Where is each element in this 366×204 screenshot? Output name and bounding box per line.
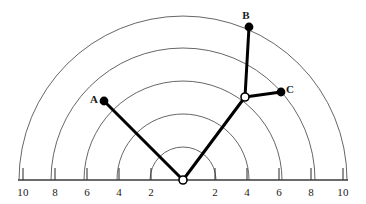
axis-tick-label-2: 2	[212, 186, 218, 198]
radial-gridline-10	[19, 16, 347, 180]
axis-tick-label-6: 6	[276, 186, 282, 198]
linkage-segment-group	[104, 27, 281, 180]
point-marker-B	[245, 23, 254, 32]
point-label-B: B	[242, 9, 250, 21]
origin-marker	[179, 176, 187, 184]
axis-tick-label--10: 10	[17, 186, 28, 198]
point-label-C: C	[286, 83, 294, 95]
axis-tick-label-4: 4	[244, 186, 250, 198]
segment-joint-to-C	[245, 92, 281, 97]
point-marker-A	[100, 97, 109, 106]
point-marker-C	[277, 88, 286, 97]
point-marker-group	[100, 23, 286, 184]
radial-gridline-2	[150, 147, 216, 180]
axis-tick-label--4: 4	[116, 186, 122, 198]
axis-tick-label-10: 10	[337, 186, 348, 198]
polar-diagram-figure: 108642246810 ABC	[0, 0, 366, 204]
axis-tick-label--6: 6	[84, 186, 90, 198]
joint-marker	[241, 93, 249, 101]
point-label-A: A	[90, 93, 98, 105]
radial-gridline-group	[19, 16, 347, 180]
axis-tick-label-8: 8	[308, 186, 314, 198]
axis-tick-label--2: 2	[148, 186, 154, 198]
segment-joint-to-B	[245, 27, 249, 97]
axis-tick-label--8: 8	[52, 186, 58, 198]
segment-origin-to-A	[104, 101, 183, 180]
polar-diagram-canvas	[0, 0, 366, 204]
